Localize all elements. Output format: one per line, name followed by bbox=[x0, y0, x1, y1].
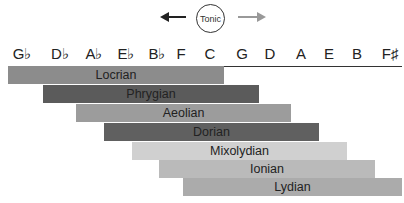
note-label: B bbox=[352, 45, 362, 62]
mode-label: Locrian bbox=[96, 68, 137, 82]
mode-bar-lydian: Lydian bbox=[183, 178, 402, 196]
note-label: B♭ bbox=[148, 45, 165, 62]
mode-label: Phrygian bbox=[126, 87, 175, 101]
note-label: G bbox=[236, 45, 248, 62]
note-label: G♭ bbox=[13, 45, 32, 62]
mode-bar-locrian: Locrian bbox=[8, 66, 224, 84]
mode-label: Mixolydian bbox=[210, 144, 269, 158]
note-label: A bbox=[296, 45, 306, 62]
mode-bar-phrygian: Phrygian bbox=[43, 85, 259, 103]
note-label: D♭ bbox=[51, 45, 69, 62]
note-label: C bbox=[205, 45, 216, 62]
tonic-label: Tonic bbox=[200, 14, 221, 24]
note-label: D bbox=[265, 45, 276, 62]
note-label: E♭ bbox=[117, 45, 134, 62]
mode-label: Dorian bbox=[193, 125, 230, 139]
note-label: F bbox=[176, 45, 185, 62]
mode-label: Ionian bbox=[250, 162, 284, 176]
note-label: A♭ bbox=[85, 45, 102, 62]
tonic-circle: Tonic bbox=[196, 4, 225, 33]
arrow-right-icon bbox=[236, 11, 266, 23]
mode-label: Aeolian bbox=[163, 106, 205, 120]
mode-bar-aeolian: Aeolian bbox=[76, 104, 291, 122]
note-label: F♯ bbox=[382, 45, 399, 62]
mode-bar-ionian: Ionian bbox=[159, 160, 375, 178]
arrow-left-icon bbox=[160, 11, 190, 23]
note-label: E bbox=[324, 45, 334, 62]
mode-bar-mixolydian: Mixolydian bbox=[132, 142, 347, 160]
mode-label: Lydian bbox=[274, 180, 310, 194]
mode-bar-dorian: Dorian bbox=[104, 123, 319, 141]
